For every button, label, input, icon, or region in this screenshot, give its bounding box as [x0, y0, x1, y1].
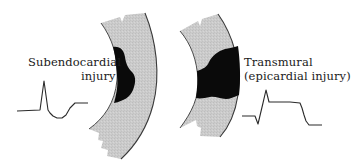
subendocardial-label-injury: injury [81, 70, 116, 83]
ecg-st-elevation-trace [242, 90, 322, 125]
epicardial-injury-label: (epicardial injury) [244, 70, 351, 83]
transmural-label: Transmural [244, 56, 313, 69]
subendocardial-wall-segment [89, 13, 157, 159]
ecg-st-depression-trace [17, 81, 88, 118]
transmural-wall-segment [180, 14, 240, 137]
subendocardial-label: Subendocardial [28, 56, 121, 69]
myocardial-injury-diagram: Subendocardial injury Transmural (epicar… [0, 0, 355, 163]
